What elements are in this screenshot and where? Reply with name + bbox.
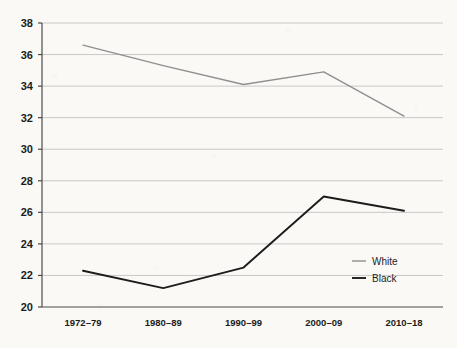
- y-tick-label: 30: [21, 143, 33, 155]
- legend: WhiteBlack: [352, 256, 398, 284]
- x-tick-label: 2000–09: [305, 317, 342, 328]
- series-line-black: [83, 197, 404, 289]
- y-tick-label: 32: [21, 112, 33, 124]
- x-tick-label: 2010–18: [386, 317, 423, 328]
- chart-canvas: 202224262830323436381972–791980–891990–9…: [0, 0, 457, 348]
- series-group: [83, 45, 404, 288]
- y-tick-label: 28: [21, 175, 33, 187]
- y-tick-label: 36: [21, 49, 33, 61]
- y-axis-ticks: 20222426283032343638: [21, 17, 42, 313]
- y-tick-label: 38: [21, 17, 33, 29]
- y-tick-label: 22: [21, 269, 33, 281]
- x-tick-label: 1980–89: [145, 317, 182, 328]
- x-tick-label: 1990–99: [225, 317, 262, 328]
- y-tick-label: 34: [21, 80, 34, 92]
- legend-label-black: Black: [372, 273, 397, 284]
- legend-label-white: White: [372, 256, 398, 267]
- line-chart: 202224262830323436381972–791980–891990–9…: [0, 0, 457, 348]
- y-tick-label: 26: [21, 206, 33, 218]
- x-axis-labels: 1972–791980–891990–992000–092010–18: [65, 317, 423, 328]
- x-tick-label: 1972–79: [65, 317, 102, 328]
- y-tick-label: 20: [21, 301, 33, 313]
- series-line-white: [83, 45, 404, 116]
- y-tick-label: 24: [21, 238, 34, 250]
